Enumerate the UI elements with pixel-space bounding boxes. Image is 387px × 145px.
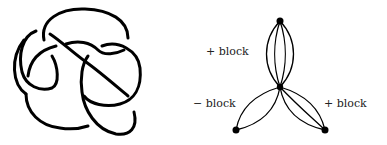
graph-edge [267, 21, 281, 87]
graph-edge [280, 21, 285, 87]
knot-diagram [14, 9, 140, 134]
vertex-bottom-left [233, 127, 240, 134]
block-graph [236, 21, 325, 130]
label-right-block: + block [324, 97, 367, 110]
graph-edge [280, 21, 294, 87]
figure: + block − block + block [0, 0, 387, 145]
vertex-top [277, 18, 284, 25]
graph-edge [275, 21, 280, 87]
graph-vertices [233, 18, 329, 134]
label-top-block: + block [206, 45, 249, 58]
label-left-block: − block [193, 97, 236, 110]
graph-edge [280, 87, 325, 130]
graph-edge [236, 87, 280, 130]
vertex-center [277, 84, 283, 90]
vertex-bottom-right [322, 127, 329, 134]
graph-edge [236, 87, 280, 130]
